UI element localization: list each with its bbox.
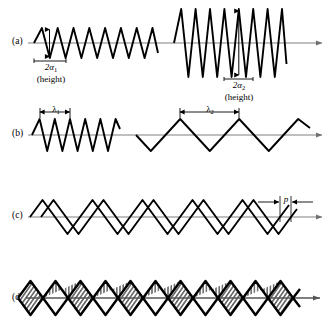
- wave-figure: (a) 2α1 (he: [0, 0, 335, 333]
- panel-b-plot: [0, 104, 335, 176]
- amplitude-2-symbol: 2α: [233, 80, 242, 90]
- phase-offset-label: p: [281, 194, 291, 204]
- amplitude-2-height-note: (height): [215, 92, 263, 102]
- amplitude-1-symbol: 2α: [45, 62, 54, 72]
- amplitude-1-label: 2α1: [34, 62, 68, 73]
- amplitude-1-height-note: (height): [27, 74, 75, 84]
- amplitude-2-label: 2α2: [222, 80, 256, 91]
- wavelength-2-label: λ2: [198, 104, 222, 115]
- panel-d-plot: [0, 262, 335, 333]
- wavelength-1-label: λ1: [44, 104, 68, 115]
- amplitude-1-subscript: 1: [54, 66, 57, 73]
- wavelength-2-subscript: 2: [211, 108, 214, 115]
- panel-c-plot: [0, 182, 335, 254]
- amplitude-2-subscript: 2: [242, 84, 245, 91]
- wavelength-1-subscript: 1: [57, 108, 60, 115]
